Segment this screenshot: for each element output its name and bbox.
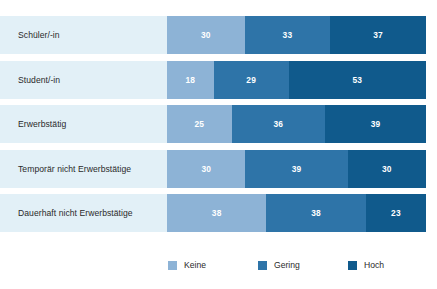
bar-segment-keine: 38 [167, 194, 266, 232]
stacked-bar-chart: Schüler/-in303337Student/-in182953Erwerb… [0, 0, 437, 289]
bar-segment-gering: 36 [232, 105, 325, 143]
bar-segment-keine: 18 [167, 61, 214, 99]
category-label: Erwerbstätig [18, 105, 66, 143]
category-label: Temporär nicht Erwerbstätige [18, 150, 131, 188]
chart-legend: KeineGeringHoch [167, 258, 437, 274]
legend-item: Gering [258, 258, 300, 272]
bar-segment-hoch: 39 [325, 105, 426, 143]
chart-plot-area: Schüler/-in303337Student/-in182953Erwerb… [0, 16, 437, 252]
legend-swatch-icon [168, 261, 177, 270]
bar-segment-hoch: 37 [330, 16, 426, 54]
stacked-bar: 182953 [167, 61, 426, 99]
chart-row: Temporär nicht Erwerbstätige303930 [0, 150, 437, 188]
stacked-bar: 383823 [167, 194, 426, 232]
bar-segment-hoch: 23 [366, 194, 426, 232]
legend-item: Keine [168, 258, 206, 272]
category-label: Schüler/-in [18, 16, 60, 54]
legend-label: Keine [184, 260, 206, 270]
stacked-bar: 253639 [167, 105, 426, 143]
stacked-bar: 303337 [167, 16, 426, 54]
category-label: Dauerhaft nicht Erwerbstätige [18, 194, 133, 232]
bar-segment-keine: 30 [167, 16, 245, 54]
chart-row: Erwerbstätig253639 [0, 105, 437, 143]
stacked-bar: 303930 [167, 150, 426, 188]
chart-row: Student/-in182953 [0, 61, 437, 99]
bar-segment-gering: 38 [266, 194, 365, 232]
bar-segment-keine: 30 [167, 150, 245, 188]
bar-segment-gering: 33 [245, 16, 330, 54]
legend-label: Gering [274, 260, 300, 270]
legend-label: Hoch [364, 260, 384, 270]
chart-row: Schüler/-in303337 [0, 16, 437, 54]
chart-row: Dauerhaft nicht Erwerbstätige383823 [0, 194, 437, 232]
legend-item: Hoch [348, 258, 384, 272]
category-label: Student/-in [18, 61, 60, 99]
legend-swatch-icon [258, 261, 267, 270]
bar-segment-gering: 29 [214, 61, 289, 99]
bar-segment-keine: 25 [167, 105, 232, 143]
cropped-title-text [228, 0, 413, 7]
bar-segment-hoch: 30 [348, 150, 426, 188]
bar-segment-hoch: 53 [289, 61, 426, 99]
legend-swatch-icon [348, 261, 357, 270]
bar-segment-gering: 39 [245, 150, 347, 188]
